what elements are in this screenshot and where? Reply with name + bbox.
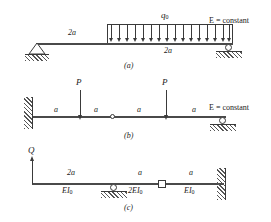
panel-caption-a: (a)	[124, 62, 133, 70]
load-right-tick	[232, 24, 233, 43]
load-arrow	[223, 24, 224, 39]
load-arrow	[127, 24, 128, 39]
fixed-wall-support-b	[24, 97, 33, 129]
load-arrow	[159, 24, 160, 39]
load-arrow	[119, 24, 120, 39]
ground-hatch-b	[210, 124, 236, 131]
panel-c: Q 2a a a EI0 2EI0 EI0 (c)	[0, 142, 271, 222]
panel-caption-b: (b)	[124, 132, 133, 140]
load-left-tick	[107, 24, 108, 43]
load-arrow	[207, 24, 208, 39]
load-arrow	[215, 24, 216, 39]
roller-support-a	[225, 44, 232, 51]
panel-b: P P a a a a E = constant (b)	[0, 74, 271, 142]
point-load-arrow-p1	[80, 90, 81, 116]
panel-caption-c: (c)	[124, 204, 133, 212]
point-load-label-p2: P	[162, 78, 168, 87]
point-load-arrow-p2	[166, 90, 167, 116]
segment-label-b-1: a	[54, 106, 58, 114]
load-arrow	[183, 24, 184, 39]
beam-a	[36, 43, 233, 45]
ground-hatch-c	[101, 191, 127, 198]
segment-length-c-1: 2a	[67, 169, 75, 177]
span-label-left-a: 2a	[68, 29, 76, 37]
load-arrow	[199, 24, 200, 39]
load-arrow	[175, 24, 176, 39]
segment-length-c-3: a	[189, 169, 193, 177]
ground-hatch-a-right	[216, 51, 242, 58]
ground-hatch-a-left	[25, 54, 49, 61]
load-arrow	[135, 24, 136, 39]
beam-c	[32, 183, 224, 185]
note-e-constant-b: E = constant	[209, 104, 249, 112]
panel-a: q0 2a 2a E = constant (a)	[0, 0, 271, 74]
segment-label-b-3: a	[137, 106, 141, 114]
roller-support-c	[110, 184, 117, 191]
beam-b	[33, 116, 226, 118]
internal-hinge-b	[110, 114, 115, 119]
applied-force-arrow-q	[32, 160, 33, 184]
load-arrow	[167, 24, 168, 39]
segment-label-b-2: a	[94, 106, 98, 114]
segment-length-c-2: a	[138, 169, 142, 177]
roller-support-b	[219, 117, 226, 124]
point-load-label-p1: P	[76, 78, 82, 87]
applied-force-label-q: Q	[28, 146, 35, 155]
load-arrow	[229, 24, 230, 39]
stiffness-label-c-3: EI0	[184, 187, 195, 195]
internal-slider-connection-c	[158, 180, 166, 188]
load-arrow	[151, 24, 152, 39]
stiffness-label-c-1: EI0	[62, 187, 73, 195]
load-arrow	[143, 24, 144, 39]
note-e-constant-a: E = constant	[209, 17, 249, 25]
load-arrow	[111, 24, 112, 39]
fixed-wall-support-c	[217, 168, 226, 200]
distributed-load-q0	[107, 24, 233, 43]
stiffness-label-c-2: 2EI0	[128, 187, 143, 195]
distributed-load-label: q0	[161, 11, 169, 20]
span-label-loaded-a: 2a	[164, 47, 172, 55]
segment-label-b-4: a	[192, 106, 196, 114]
load-arrow	[191, 24, 192, 39]
